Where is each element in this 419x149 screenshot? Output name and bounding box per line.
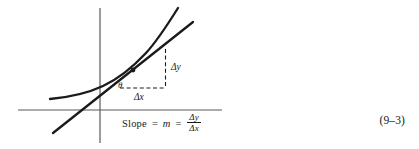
m-symbol: m <box>163 118 171 129</box>
delta-x-label: Δx <box>133 92 145 102</box>
equals-sign-1: = <box>152 118 158 129</box>
equation-number: (9–3) <box>380 114 405 126</box>
slope-equation: Slope = m = Δy Δx <box>122 113 201 133</box>
delta-fraction: Δy Δx <box>187 113 200 133</box>
tangency-point <box>131 68 136 73</box>
slope-word: Slope <box>122 118 147 129</box>
delta-y-label: Δy <box>170 62 182 72</box>
theta-label: θ <box>118 80 123 90</box>
fraction-numerator: Δy <box>187 113 200 122</box>
fraction-denominator: Δx <box>187 124 200 133</box>
equals-sign-2: = <box>175 118 181 129</box>
